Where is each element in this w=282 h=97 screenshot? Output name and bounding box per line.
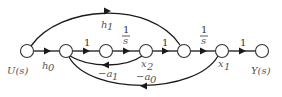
gain-1-b: 1: [162, 37, 168, 48]
node-2: [60, 45, 73, 58]
svg-text:0: 0: [150, 74, 157, 85]
label-x1: x 1: [218, 58, 230, 72]
svg-text:0: 0: [48, 62, 55, 73]
node-3: [100, 45, 113, 58]
node-y: [256, 45, 269, 58]
gain-1-over-s-a: 1 s: [122, 24, 130, 46]
gain-1-c: 1: [240, 37, 246, 48]
svg-text:1: 1: [107, 21, 113, 32]
svg-text:−a: −a: [98, 68, 112, 79]
svg-text:1: 1: [112, 71, 118, 82]
svg-text:s: s: [201, 35, 206, 46]
signal-flow-graph: U(s) Y(s) x 2 x 1 h 0 h 1 1 1 1 1 s 1 s …: [0, 0, 282, 97]
label-u: U(s): [7, 65, 28, 76]
svg-text:−a: −a: [136, 71, 150, 82]
svg-text:1: 1: [224, 61, 230, 72]
svg-text:1: 1: [201, 24, 207, 35]
label-x2: x 2: [141, 58, 153, 72]
node-x2: [140, 45, 153, 58]
branch-x2-n5: [153, 48, 177, 55]
label-h0: h 0: [42, 60, 55, 73]
branch-n3-x2: [113, 48, 139, 55]
branch-n5-x1: [191, 48, 215, 55]
svg-text:1: 1: [123, 24, 129, 35]
label-h1: h 1: [101, 19, 113, 32]
branch-n2-n3: [73, 48, 99, 55]
branch-x1-y: [229, 48, 255, 55]
gain-1-a: 1: [84, 37, 90, 48]
label-y: Y(s): [251, 65, 271, 76]
svg-text:s: s: [123, 35, 128, 46]
node-5: [178, 45, 191, 58]
node-x1: [216, 45, 229, 58]
gain-1-over-s-b: 1 s: [200, 24, 208, 46]
branch-u-n2: [34, 48, 59, 55]
node-u: [21, 45, 34, 58]
